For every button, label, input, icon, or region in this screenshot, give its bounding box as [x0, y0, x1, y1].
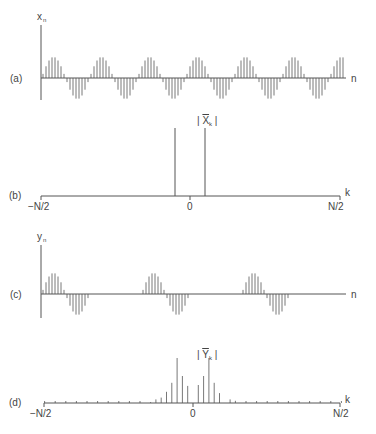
- ylabel-y-sub: n: [43, 237, 46, 243]
- xlabel-k-d: k: [345, 394, 351, 405]
- tick-label-neg-b: −N/2: [28, 201, 50, 212]
- tick-label-neg-d: −N/2: [30, 408, 52, 419]
- ylabel-x-sub: n: [43, 17, 46, 23]
- xlabel-n-c: n: [351, 289, 357, 300]
- panel-a: x n n (a): [10, 11, 357, 100]
- figure: x n n (a) | Xk | k (b) −N/2 0 N/2 y n n …: [0, 0, 376, 434]
- panel-d: | Yk | k (d) −N/2 0 N/2: [9, 349, 351, 419]
- panel-b: | Xk | k (b) −N/2 0 N/2: [9, 115, 351, 212]
- stems-a: [43, 57, 343, 98]
- xlabel-n-a: n: [351, 73, 357, 84]
- ylabel-Xk: | Xk |: [197, 115, 217, 127]
- ylabel-Yk: | Yk |: [197, 349, 217, 361]
- tick-label-zero-b: 0: [187, 201, 193, 212]
- ylabel-x: x: [37, 11, 42, 22]
- ylabel-y: y: [37, 231, 42, 242]
- tick-label-zero-d: 0: [190, 408, 196, 419]
- stems-d: [45, 358, 342, 403]
- xlabel-k-b: k: [345, 187, 351, 198]
- tick-label-pos-b: N/2: [328, 201, 344, 212]
- panel-label-c: (c): [10, 289, 22, 300]
- tick-label-pos-d: N/2: [333, 408, 349, 419]
- panel-label-b: (b): [9, 190, 21, 201]
- panel-label-d: (d): [9, 397, 21, 408]
- panel-c: y n n (c): [10, 231, 357, 318]
- panel-label-a: (a): [10, 73, 22, 84]
